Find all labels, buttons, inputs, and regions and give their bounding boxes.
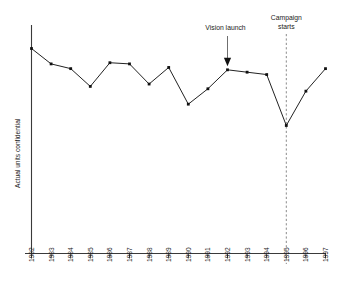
x-axis-tick-label-1991: 1991	[204, 247, 211, 262]
vision-launch-arrow-head	[224, 58, 231, 66]
x-axis-tick-label-1992: 1992	[224, 247, 231, 262]
x-axis-tick-marks	[32, 254, 326, 259]
chart-figure: 1982198319841985198619871988198919901991…	[0, 0, 346, 301]
data-point-1984	[69, 67, 72, 70]
data-point-1986	[109, 61, 112, 64]
x-axis-tick-label-1987: 1987	[126, 247, 133, 262]
annotation-label-campaign-line1: Campaign	[271, 14, 302, 22]
data-point-1987	[128, 63, 131, 66]
x-axis-tick-label-1983: 1983	[48, 247, 55, 262]
y-axis-label: Actual units confidential	[14, 118, 21, 188]
x-axis-tick-label-1986: 1986	[106, 247, 113, 262]
x-axis-tick-label-1985: 1985	[87, 247, 94, 262]
data-point-1990	[187, 103, 190, 106]
x-axis-tick-label-1988: 1988	[146, 247, 153, 262]
data-point-1996	[305, 90, 308, 93]
x-axis-tick-label-1994: 1994	[263, 247, 270, 262]
data-point-1985	[89, 85, 92, 88]
x-axis-tick-label-1996: 1996	[302, 247, 309, 262]
x-axis-tick-label-1982: 1982	[28, 247, 35, 262]
x-axis-tick-label-1997: 1997	[322, 247, 329, 262]
data-point-1993	[246, 71, 249, 74]
data-point-1992	[226, 68, 229, 71]
x-axis-tick-labels: 1982198319841985198619871988198919901991…	[28, 247, 329, 262]
x-axis-tick-label-1993: 1993	[244, 247, 251, 262]
data-point-1989	[167, 66, 170, 69]
data-point-1982	[30, 47, 33, 50]
data-point-1988	[148, 83, 151, 86]
data-point-1991	[207, 87, 210, 90]
annotation-label-campaign-line2: starts	[278, 23, 295, 30]
data-point-1995	[285, 124, 288, 127]
x-axis-tick-label-1984: 1984	[67, 247, 74, 262]
data-point-1997	[324, 67, 327, 70]
x-axis-tick-label-1990: 1990	[185, 247, 192, 262]
line-chart-canvas: 1982198319841985198619871988198919901991…	[0, 0, 346, 301]
data-point-1983	[50, 63, 53, 66]
annotation-label-vision-launch: Vision launch	[205, 24, 246, 31]
x-axis-tick-label-1989: 1989	[165, 247, 172, 262]
data-series-line	[32, 49, 326, 126]
data-point-1994	[265, 73, 268, 76]
